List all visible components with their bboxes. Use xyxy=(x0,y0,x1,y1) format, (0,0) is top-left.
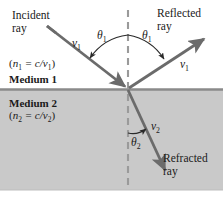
v1-reflected-subscript: 1 xyxy=(185,64,189,73)
theta2-subscript: 2 xyxy=(137,142,141,151)
medium2-name: Medium 2 xyxy=(9,97,57,109)
theta1-incident-subscript: 1 xyxy=(103,35,107,44)
refracted-ray-label-line1: Refracted xyxy=(163,152,208,164)
theta1-reflected-subscript: 1 xyxy=(148,35,152,44)
medium1-formula-equals: = c/ xyxy=(22,57,43,69)
reflected-ray-line xyxy=(129,39,204,88)
medium1-block: (n1 = c/v1) Medium 1 xyxy=(9,57,57,85)
theta1-reflected-label: θ1 xyxy=(142,29,152,45)
theta1-incident-label: θ1 xyxy=(97,29,107,45)
medium2-block: Medium 2 (n2 = c/v2) xyxy=(9,97,57,125)
medium2-formula-close: ) xyxy=(51,109,55,121)
v1-incident-label: v1 xyxy=(72,37,81,53)
medium1-formula: (n1 = c/v1) xyxy=(9,57,57,73)
incident-ray-label: Incident ray xyxy=(12,9,50,35)
reflected-ray-label-line1: Reflected xyxy=(157,7,201,19)
incident-ray-label-line2: ray xyxy=(12,22,27,34)
v2-refracted-label: v2 xyxy=(151,120,160,136)
refracted-ray-label-line2: ray xyxy=(163,165,178,177)
theta2-label: θ2 xyxy=(131,136,141,152)
medium1-formula-close: ) xyxy=(51,57,55,69)
incident-ray-label-line1: Incident xyxy=(12,9,50,21)
optics-refraction-diagram: Incident ray Reflected ray Refracted ray… xyxy=(0,0,223,197)
reflected-ray-label: Reflected ray xyxy=(157,7,201,33)
medium2-formula-equals: = c/ xyxy=(22,109,43,121)
v2-refracted-subscript: 2 xyxy=(156,126,160,135)
reflected-ray-label-line2: ray xyxy=(157,20,172,32)
incident-ray-line xyxy=(47,26,125,87)
medium2-formula: (n2 = c/v2) xyxy=(9,109,57,125)
v1-reflected-label: v1 xyxy=(180,58,189,74)
theta1-incident-arc xyxy=(90,35,128,58)
v1-incident-subscript: 1 xyxy=(77,43,81,52)
medium1-name: Medium 1 xyxy=(9,73,57,85)
refracted-ray-label: Refracted ray xyxy=(163,152,208,178)
